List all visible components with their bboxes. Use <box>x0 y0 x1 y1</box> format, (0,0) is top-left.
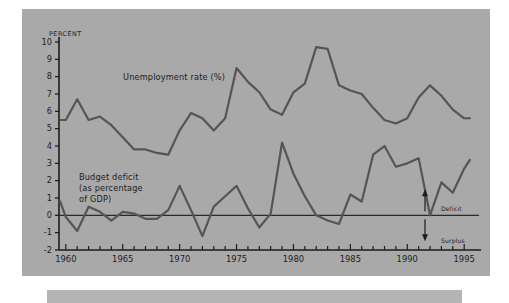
budget-label-line-2: (as percentage <box>79 183 143 194</box>
x-tick-label: 1965 <box>106 254 140 264</box>
y-tick-label: 0 <box>36 210 52 220</box>
x-tick-label: 1975 <box>220 254 254 264</box>
chart-panel: PERCENT Unemployment rate (%) Budget def… <box>22 9 490 276</box>
y-tick-label: 5 <box>36 123 52 133</box>
figure-root: PERCENT Unemployment rate (%) Budget def… <box>0 0 509 303</box>
y-tick-label: 1 <box>36 193 52 203</box>
y-tick-label: 7 <box>36 89 52 99</box>
x-tick-label: 1995 <box>447 254 481 264</box>
y-tick-label: 8 <box>36 71 52 81</box>
x-tick-label: 1980 <box>276 254 310 264</box>
y-tick-label: -2 <box>36 245 52 255</box>
y-tick-label: -1 <box>36 227 52 237</box>
chart-plot-area <box>22 9 490 276</box>
y-tick-label: 3 <box>36 158 52 168</box>
x-tick-label: 1960 <box>49 254 83 264</box>
y-tick-label: 6 <box>36 106 52 116</box>
unemployment-series-label: Unemployment rate (%) <box>123 72 225 83</box>
deficit-arrow-label: Deficit <box>441 205 462 213</box>
y-tick-label: 2 <box>36 175 52 185</box>
budget-label-line-1: Budget deficit <box>79 172 143 183</box>
surplus-arrow-label: Surplus <box>441 237 465 245</box>
y-tick-label: 4 <box>36 141 52 151</box>
budget-deficit-series-label: Budget deficit (as percentage of GDP) <box>79 172 143 204</box>
y-axis-unit-label: PERCENT <box>49 30 82 38</box>
y-tick-label: 9 <box>36 54 52 64</box>
x-tick-label: 1985 <box>333 254 367 264</box>
caption-strip <box>47 288 462 303</box>
data-lines-group <box>60 47 470 236</box>
budget-label-line-3: of GDP) <box>79 194 143 205</box>
x-tick-label: 1970 <box>163 254 197 264</box>
y-tick-label: 10 <box>36 37 52 47</box>
x-tick-label: 1990 <box>390 254 424 264</box>
